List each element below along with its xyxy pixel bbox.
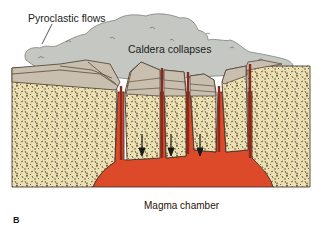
pyroclastic-flows-label: Pyroclastic flows <box>28 12 106 24</box>
subsiding-block-2 <box>164 70 186 158</box>
magma-chamber-label: Magma chamber <box>144 200 219 211</box>
panel-label: B <box>13 215 20 225</box>
subsiding-block-3 <box>190 74 216 152</box>
diagram-canvas <box>0 0 326 227</box>
subsiding-block-4 <box>222 66 248 152</box>
left-crust-block <box>12 60 120 187</box>
caldera-collapses-label: Caldera collapses <box>128 43 211 55</box>
caldera-collapse-diagram: Pyroclastic flows Caldera collapses Magm… <box>0 0 326 227</box>
pyroclastic-leader-line <box>42 24 52 44</box>
